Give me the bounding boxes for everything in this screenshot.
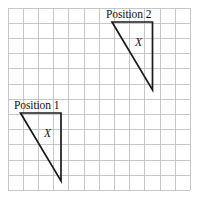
triangle-position-2 xyxy=(112,22,153,90)
position-1-side-label-x: X xyxy=(44,128,51,140)
triangle-position-1 xyxy=(21,113,62,181)
position-2-side-label-x: X xyxy=(135,37,142,49)
position-2-label: Position 2 xyxy=(106,9,151,21)
position-1-label: Position 1 xyxy=(14,100,59,112)
geometry-figure: Position 1 X Position 2 X xyxy=(0,0,198,205)
